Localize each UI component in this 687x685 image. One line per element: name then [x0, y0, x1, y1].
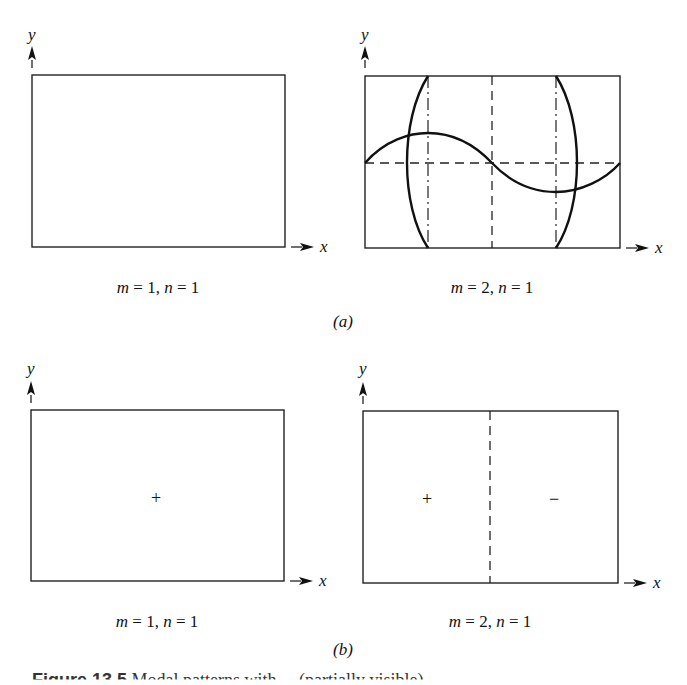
x-axis-label: x: [319, 237, 328, 256]
y-arrowhead-icon: [359, 382, 367, 396]
y-arrowhead-icon: [28, 46, 36, 60]
plate-outline: [363, 411, 618, 583]
mode-shape-y-right: [556, 76, 577, 248]
x-arrowhead-icon: [635, 244, 649, 252]
part-label-b: (b): [333, 640, 353, 659]
panel-caption: m = 2, n = 1: [451, 278, 533, 297]
panel-b-m1-n1: + y x m = 1, n = 1: [25, 359, 327, 631]
panel-a-m2-n1: y x m = 2, n = 1: [359, 25, 663, 297]
sign-plus: +: [422, 489, 432, 509]
plate-outline: [32, 75, 285, 247]
part-label-a: (a): [333, 312, 353, 331]
x-arrowhead-icon: [299, 577, 313, 585]
y-axis-label: y: [357, 359, 367, 378]
x-axis-label: x: [654, 238, 663, 257]
x-axis-label: x: [652, 573, 661, 592]
panel-caption: m = 1, n = 1: [116, 612, 198, 631]
x-arrowhead-icon: [300, 243, 314, 251]
modal-pattern-figure: y x m = 1, n = 1 y x m = 2, n = 1 (a) +: [0, 0, 687, 685]
sign-plus: +: [151, 488, 161, 508]
x-arrowhead-icon: [633, 579, 647, 587]
panel-a-m1-n1: y x m = 1, n = 1: [26, 25, 328, 297]
panel-b-m2-n1: + − y x m = 2, n = 1: [357, 359, 661, 631]
x-axis-label: x: [318, 571, 327, 590]
y-arrowhead-icon: [361, 46, 369, 60]
sign-minus: −: [549, 489, 559, 509]
panel-caption: m = 2, n = 1: [449, 612, 531, 631]
y-axis-label: y: [359, 25, 369, 44]
panel-caption: m = 1, n = 1: [117, 278, 199, 297]
mode-shape-y-left: [407, 76, 428, 248]
y-arrowhead-icon: [27, 381, 35, 395]
y-axis-label: y: [26, 25, 36, 44]
y-axis-label: y: [25, 359, 35, 378]
